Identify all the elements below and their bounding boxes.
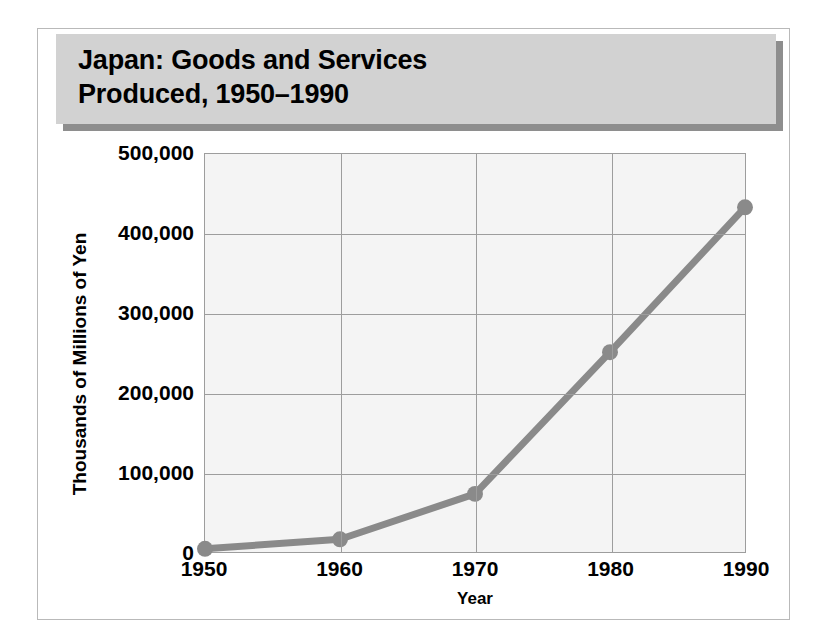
y-axis-tick-labels: 0100,000200,000300,000400,000500,000 (38, 153, 204, 553)
x-axis-tick-labels: 19501960197019801990 (204, 557, 746, 589)
x-axis-tick: 1970 (415, 557, 535, 581)
data-point-marker (737, 199, 753, 215)
chart-figure: Japan: Goods and Services Produced, 1950… (37, 28, 790, 620)
x-axis-tick: 1960 (280, 557, 400, 581)
y-axis-tick: 200,000 (54, 381, 204, 405)
series-markers (197, 199, 753, 556)
plot-region: Thousands of Millions of Yen 0100,000200… (38, 134, 789, 619)
y-axis-tick: 100,000 (54, 461, 204, 485)
y-axis-tick: 300,000 (54, 301, 204, 325)
plot-area (204, 153, 746, 553)
gridline-vertical (612, 154, 613, 552)
chart-title: Japan: Goods and Services Produced, 1950… (78, 43, 776, 112)
y-axis-tick: 500,000 (54, 141, 204, 165)
data-series-svg (205, 154, 745, 552)
x-axis-tick: 1990 (686, 557, 806, 581)
x-axis-tick: 1980 (551, 557, 671, 581)
gridline-horizontal (205, 394, 745, 395)
gridline-vertical (341, 154, 342, 552)
gridline-vertical (476, 154, 477, 552)
data-point-marker (602, 344, 618, 360)
data-point-marker (467, 486, 483, 502)
x-axis-tick: 1950 (144, 557, 264, 581)
gridline-horizontal (205, 234, 745, 235)
y-axis-tick: 400,000 (54, 221, 204, 245)
data-point-marker (197, 541, 213, 557)
chart-title-bar: Japan: Goods and Services Produced, 1950… (56, 34, 776, 124)
x-axis-label: Year (204, 589, 746, 609)
gridline-horizontal (205, 314, 745, 315)
gridline-horizontal (205, 474, 745, 475)
